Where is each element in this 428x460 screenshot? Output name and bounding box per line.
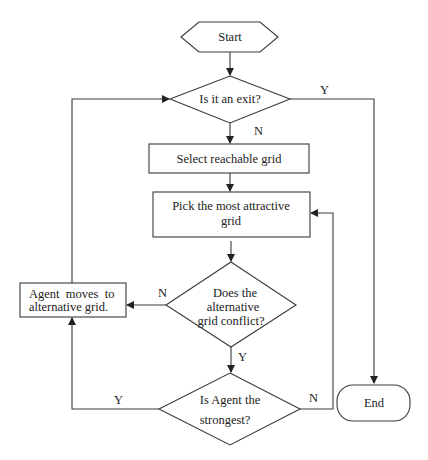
strongest-decision: Is Agent the strongest? [159, 373, 300, 445]
exit-decision: Is it an exit? [170, 76, 290, 123]
exit-no-label: N [254, 124, 263, 138]
flowchart: Start Is it an exit? Y N Select reachabl… [0, 0, 428, 460]
strongest-label-line1: Is Agent the [200, 393, 261, 407]
conflict-label-line2: alternative [207, 300, 260, 314]
pick-label-line1: Pick the most attractive [172, 199, 290, 213]
end-label: End [364, 396, 385, 410]
start-label: Start [218, 30, 242, 44]
conflict-label-line1: Does the [213, 286, 258, 300]
select-label: Select reachable grid [177, 152, 283, 166]
arrow-exit-yes-to-end [290, 99, 374, 383]
exit-yes-label: Y [320, 83, 329, 97]
select-process: Select reachable grid [149, 144, 309, 173]
start-node: Start [181, 22, 278, 52]
end-node: End [337, 385, 410, 421]
move-process: Agent moves to alternative grid. [20, 283, 126, 317]
pick-label-line2: grid [221, 214, 242, 228]
move-label-line1: Agent moves to [29, 287, 114, 301]
conflict-no-label: N [158, 286, 167, 300]
arrow-strongest-no-to-pick [300, 213, 333, 409]
conflict-label-line3: grid conflict? [198, 314, 265, 328]
exit-decision-label: Is it an exit? [199, 92, 261, 106]
conflict-yes-label: Y [238, 350, 247, 364]
strongest-yes-label: Y [114, 393, 123, 407]
move-label-line2: alternative grid. [29, 300, 108, 314]
strongest-label-line2: strongest? [200, 413, 251, 427]
pick-process: Pick the most attractive grid [153, 192, 310, 237]
strongest-no-label: N [309, 391, 318, 405]
conflict-decision: Does the alternative grid conflict? [166, 262, 296, 347]
arrow-move-to-exit [72, 99, 169, 283]
